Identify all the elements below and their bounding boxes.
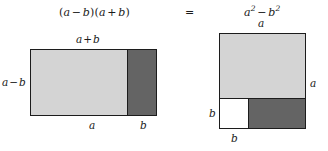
left-side-minus: − [8, 76, 19, 88]
left-rectangle-dark-region [127, 50, 156, 115]
right-diagram-side-label: a [310, 77, 316, 89]
left-expression: (a−b)(a+b) [59, 6, 130, 19]
left-diagram-bottom-label-a: a [89, 119, 95, 131]
term-b-squared-exponent: 2 [275, 4, 280, 13]
right-diagram-bottom-label: b [231, 132, 238, 144]
equals-sign: = [185, 6, 194, 19]
right-square-dark-region [249, 99, 305, 128]
right-square [219, 33, 306, 129]
right-square-white-region [220, 99, 249, 128]
left-diagram-bottom-label-b: b [140, 119, 147, 131]
left-top-term-b: b [93, 33, 100, 45]
term-a-2: a [99, 6, 106, 19]
left-diagram-top-label: a+b [76, 33, 100, 45]
right-diagram-top-label: a [258, 17, 264, 29]
left-diagram-side-label: a−b [2, 76, 26, 88]
right-square-light-region [220, 34, 305, 99]
left-side-term-b: b [19, 76, 26, 88]
term-a-squared-exponent: 2 [251, 4, 256, 13]
left-top-plus: + [82, 33, 93, 45]
term-a-squared-base: a [244, 6, 251, 19]
term-b-1: b [83, 6, 90, 19]
difference-of-squares-figure: (a−b)(a+b) = a2−b2 a+b a−b a b a a b b [0, 0, 328, 151]
right-diagram-left-label: b [209, 107, 216, 119]
right-square-bottom-row [220, 99, 305, 128]
left-rectangle [30, 49, 157, 116]
left-rectangle-light-region [31, 50, 127, 115]
minus-operator: − [70, 6, 82, 19]
close-paren-2: ) [125, 6, 130, 19]
plus-operator: + [106, 6, 118, 19]
